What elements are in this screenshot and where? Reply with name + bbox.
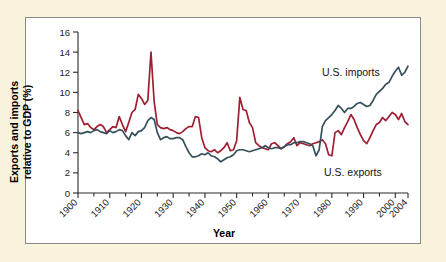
y-axis-title: Exports and imports relative to GDP (%) [4,18,44,245]
exports-imports-line-chart: 0246810121416 19001910192019301940195019… [26,18,422,245]
x-axis-title-wrap: Year [26,215,422,245]
x-axis-title: Year [213,227,235,239]
y-tick-label: 8 [65,107,70,118]
y-tick-label: 14 [59,47,70,58]
series-line-u-s-imports [78,66,408,162]
y-axis-title-line1: Exports and imports [8,81,20,183]
y-tick-label: 12 [59,67,70,78]
y-tick-label: 6 [65,127,70,138]
y-axis-title-line2: relative to GDP (%) [21,85,33,179]
y-tick-label: 10 [59,87,70,98]
series-line-u-s-exports [78,52,408,156]
y-tick-label: 2 [65,167,70,178]
axes [78,32,408,193]
chart-area: 0246810121416 19001910192019301940195019… [26,18,422,245]
figure-frame: 0246810121416 19001910192019301940195019… [25,17,421,244]
y-tick-label: 16 [59,27,70,38]
y-tick-label: 0 [65,188,70,199]
y-axis-ticks: 0246810121416 [59,27,78,199]
data-series-lines [78,52,408,162]
y-tick-label: 4 [65,147,70,158]
